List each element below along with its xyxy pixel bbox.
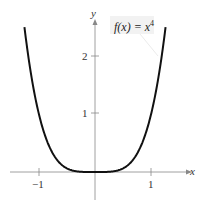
- x-tick-label-neg1: −1: [32, 179, 44, 190]
- y-axis-arrow-icon: [93, 19, 98, 25]
- x-tick-label-1: 1: [148, 179, 154, 190]
- x-axis-label: x: [190, 166, 195, 177]
- y-axis-label: y: [91, 8, 96, 19]
- y-tick-label-2: 2: [82, 51, 88, 62]
- y-tick-label-1: 1: [82, 108, 88, 119]
- function-annotation-text: f(x) = x: [114, 20, 150, 34]
- function-annotation-exponent: 4: [150, 19, 154, 28]
- function-annotation: f(x) = x4: [110, 16, 154, 34]
- chart-plot: [0, 0, 203, 214]
